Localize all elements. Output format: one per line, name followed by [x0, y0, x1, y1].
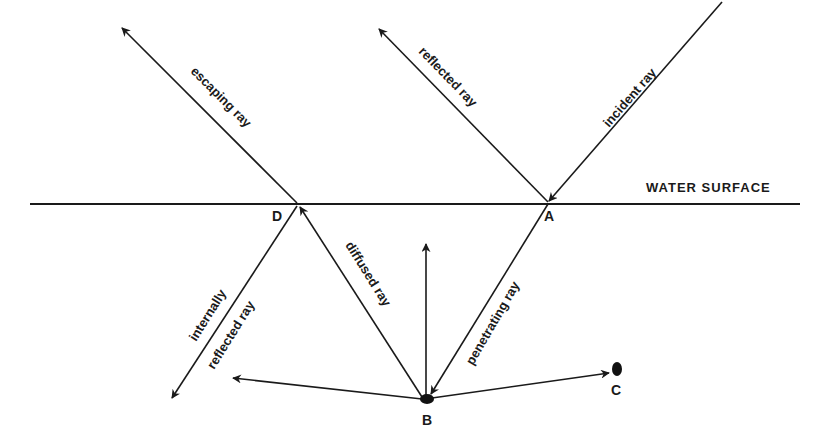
diffused-ray — [300, 207, 422, 397]
incident-ray-label: incident ray — [600, 64, 660, 129]
penetrating-ray-label: penetrating ray — [463, 278, 523, 367]
escaping-ray — [122, 28, 297, 203]
point-a-label: A — [544, 208, 554, 224]
point-c-label: C — [611, 382, 621, 398]
water-surface-label: WATER SURFACE — [646, 180, 771, 195]
diffused-ray-label: diffused ray — [342, 239, 394, 310]
point-b-label: B — [422, 412, 432, 428]
scatter-to-c-ray — [432, 373, 609, 398]
escaping-ray-label: escaping ray — [188, 64, 255, 131]
left-scatter-ray — [233, 378, 422, 399]
point-d-label: D — [272, 208, 282, 224]
penetrating-ray — [431, 204, 548, 394]
reflected-ray — [379, 29, 548, 202]
particle-b — [420, 394, 434, 404]
ray-diagram: WATER SURFACE incident ray reflected ray… — [0, 0, 822, 447]
internally-reflected-ray — [172, 206, 297, 398]
particle-c — [612, 362, 622, 376]
